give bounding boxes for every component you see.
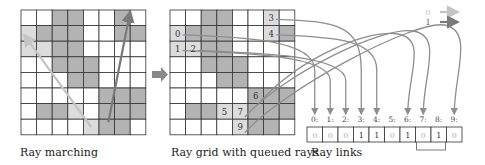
grid-cell [130, 72, 146, 88]
grid-cell [21, 88, 37, 104]
array-value: 0 [328, 131, 333, 140]
grid-cell [232, 72, 248, 88]
grid-cell [99, 26, 115, 42]
grid-cell [37, 26, 53, 42]
grid-cell [170, 119, 186, 135]
caption-ray-grid: Ray grid with queued rays [171, 146, 319, 159]
grid-cell [201, 57, 217, 73]
array-value: 0 [343, 131, 348, 140]
ray-diagram: 012345679 00:01:02:13:14:05:16:07:18:09:… [0, 0, 485, 165]
grid-cell [264, 119, 280, 135]
caption-ray-links: Ray links [311, 146, 362, 159]
grid-cell [201, 41, 217, 57]
grid-cell [21, 119, 37, 135]
grid-cell [52, 104, 68, 120]
grid-cell [186, 119, 202, 135]
grid-cell [232, 57, 248, 73]
grid-cell [99, 119, 115, 135]
grid-cell [217, 57, 233, 73]
grid-cell [83, 88, 99, 104]
grid-cell [99, 41, 115, 57]
grid-cell [83, 104, 99, 120]
grid-cell [37, 72, 53, 88]
array-value: 0 [421, 131, 426, 140]
grid-cell [186, 104, 202, 120]
grid-cell [99, 72, 115, 88]
grid-cell [130, 119, 146, 135]
grid-cell [52, 10, 68, 26]
grid-cell [130, 57, 146, 73]
array-index: 1: [327, 115, 334, 124]
grid-cell [279, 26, 295, 42]
array-index: 6: [404, 115, 411, 124]
grid-cell [52, 26, 68, 42]
legend-label: 1 [425, 18, 430, 27]
grid-cell [130, 41, 146, 57]
grid-cell [115, 88, 131, 104]
grid-cell [37, 104, 53, 120]
array-value: 1 [405, 131, 410, 140]
ray-grid [170, 10, 295, 135]
array-value: 1 [436, 131, 441, 140]
right-arrow-icon [152, 67, 168, 82]
grid-cell [52, 119, 68, 135]
grid-cell [232, 88, 248, 104]
grid-cell [52, 57, 68, 73]
array-index: 9: [451, 115, 458, 124]
array-value: 1 [374, 131, 379, 140]
grid-cell [201, 88, 217, 104]
grid-cell [217, 26, 233, 42]
array-value: 0 [312, 131, 317, 140]
array-index: 3: [358, 115, 365, 124]
grid-cell [232, 41, 248, 57]
grid-cell [99, 57, 115, 73]
grid-cell [248, 10, 264, 26]
grid-cell [264, 104, 280, 120]
grid-cell [217, 41, 233, 57]
grid-cell [21, 10, 37, 26]
grid-cell [279, 41, 295, 57]
queued-ray-label: 3 [269, 13, 274, 23]
grid-cell [37, 119, 53, 135]
ray-links-array: 00:01:02:13:14:05:16:07:18:09: [307, 115, 462, 150]
caption-ray-marching: Ray marching [20, 146, 98, 159]
array-index: 0: [311, 115, 318, 124]
grid-cell [21, 72, 37, 88]
array-index: 8: [435, 115, 442, 124]
grid-cell [186, 88, 202, 104]
grid-cell [201, 72, 217, 88]
array-index: 4: [373, 115, 380, 124]
grid-cell [21, 57, 37, 73]
queued-ray-label: 5 [222, 107, 227, 117]
array-value: 0 [390, 131, 395, 140]
array-value: 1 [359, 131, 364, 140]
grid-cell [83, 57, 99, 73]
grid-cell [37, 10, 53, 26]
grid-cell [217, 119, 233, 135]
grid-cell [21, 26, 37, 42]
grid-cell [83, 26, 99, 42]
grid-cell [201, 26, 217, 42]
grid-cell [170, 72, 186, 88]
queued-ray-label: 6 [253, 91, 258, 101]
grid-cell [248, 72, 264, 88]
array-index: 2: [342, 115, 349, 124]
grid-cell [68, 88, 84, 104]
bracket [417, 142, 446, 150]
grid-cell [186, 72, 202, 88]
grid-cell [68, 26, 84, 42]
grid-cell [37, 88, 53, 104]
queued-ray-label: 1 [175, 44, 180, 54]
grid-cell [115, 57, 131, 73]
grid-cell [68, 72, 84, 88]
grid-cell [130, 26, 146, 42]
grid-cell [279, 104, 295, 120]
grid-cell [217, 10, 233, 26]
grid-cell [279, 10, 295, 26]
grid-cell [68, 119, 84, 135]
grid-cell [68, 57, 84, 73]
grid-cell [83, 72, 99, 88]
grid-cell [232, 10, 248, 26]
grid-cell [52, 41, 68, 57]
grid-cell [99, 10, 115, 26]
